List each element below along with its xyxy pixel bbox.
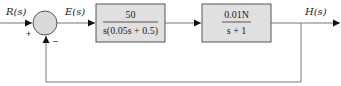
plant-denominator: s + 1 xyxy=(227,25,247,36)
plant-numerator: 0.01N xyxy=(224,9,249,20)
minus-sign: – xyxy=(53,36,58,46)
error-label: E(s) xyxy=(64,6,85,17)
output-label: H(s) xyxy=(304,6,327,17)
controller-denominator: s(0.05s + 0.5) xyxy=(103,25,158,37)
controller-numerator: 50 xyxy=(126,9,136,20)
plus-sign: + xyxy=(26,29,31,39)
block-diagram: R(s) + – E(s) 50 s(0.05s + 0.5) 0.01N s … xyxy=(0,0,341,86)
summing-junction xyxy=(33,11,57,35)
input-label: R(s) xyxy=(5,6,27,17)
